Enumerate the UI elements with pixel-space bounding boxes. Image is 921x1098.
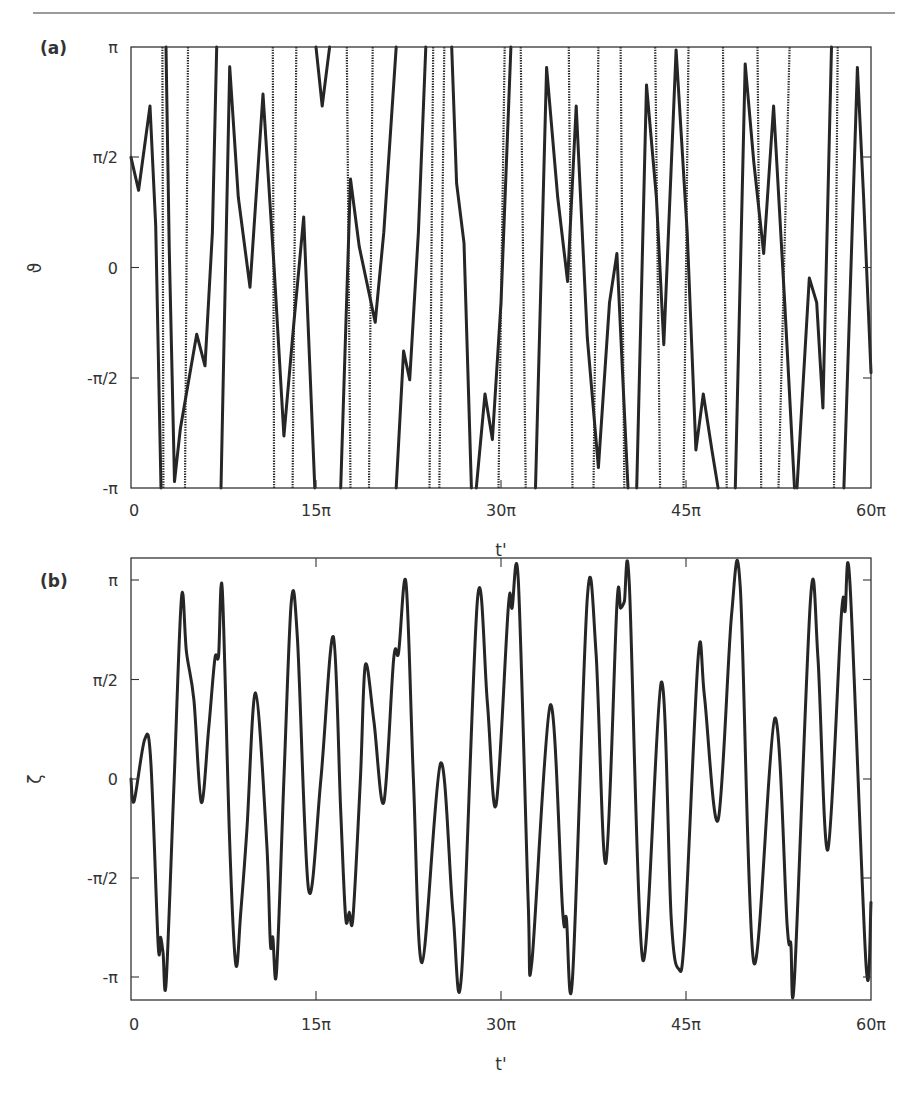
theta-curve-segment [637, 50, 718, 488]
zeta-curve [131, 560, 871, 998]
theta-curve-segment [452, 47, 472, 488]
zeta-curve-path [131, 560, 871, 998]
theta-curve-segment [735, 64, 794, 488]
theta-curve-segment [797, 47, 832, 488]
ytick-label-b-pi: π [108, 571, 118, 590]
theta-curve-segment [536, 67, 629, 488]
theta-rotation-line [521, 47, 526, 488]
figure: (a) π π/2 0 -π/2 -π 0 15π 30π 45π 60π t'… [0, 0, 921, 1098]
theta-curve-segment [844, 67, 871, 488]
ytick-label-b-neg-pi-half: -π/2 [87, 869, 118, 888]
theta-curve-segment [221, 67, 315, 488]
theta-rotation-line [430, 47, 434, 488]
theta-curve-segment [131, 106, 161, 488]
xtick-label-a-15: 15π [301, 501, 331, 520]
theta-rotation-line [439, 47, 444, 488]
xtick-label-a-30: 30π [486, 501, 516, 520]
panel-a-label: (a) [40, 38, 67, 58]
ytick-label-a-neg-pi-half: -π/2 [87, 369, 118, 388]
theta-rotation-line [723, 47, 727, 488]
xtick-label-b-60: 60π [856, 1015, 886, 1034]
theta-rotation-line [834, 47, 838, 488]
ylabel-a: ϑ [25, 263, 45, 274]
ytick-label-b-neg-pi: -π [103, 968, 119, 987]
ytick-label-b-pi-half: π/2 [93, 671, 118, 690]
theta-rotation-line [185, 47, 188, 488]
theta-curve-segment [316, 47, 330, 106]
xtick-label-b-15: 15π [301, 1015, 331, 1034]
ytick-label-a-pi: π [108, 38, 118, 57]
theta-rotation-line [621, 47, 625, 488]
theta-rotation-line [293, 47, 297, 488]
theta-rotation-line [162, 47, 163, 488]
ytick-label-a-neg-pi: -π [103, 479, 119, 498]
ylabel-b: ζ [25, 774, 45, 783]
xlabel-a: t' [495, 540, 506, 560]
xtick-label-a-45: 45π [671, 501, 701, 520]
ytick-label-a-zero: 0 [108, 259, 118, 278]
theta-curve-segment [476, 47, 511, 488]
panel-b: (b) π π/2 0 -π/2 -π 0 15π 30π 45π 60π [25, 558, 886, 1074]
xtick-label-b-0: 0 [129, 1015, 139, 1034]
ytick-label-b-zero: 0 [108, 770, 118, 789]
xtick-label-b-30: 30π [486, 1015, 516, 1034]
theta-curve [131, 47, 871, 488]
theta-curve-segment [166, 47, 217, 482]
theta-curve-segment [396, 47, 426, 488]
xlabel-b: t' [495, 1054, 506, 1074]
xtick-label-a-0: 0 [129, 501, 139, 520]
xtick-label-a-60: 60π [856, 501, 886, 520]
xtick-label-b-45: 45π [671, 1015, 701, 1034]
theta-rotation-line [758, 47, 762, 488]
panel-a: (a) π π/2 0 -π/2 -π 0 15π 30π 45π 60π t'… [25, 38, 886, 560]
panel-b-label: (b) [40, 571, 68, 591]
ytick-label-a-pi-half: π/2 [93, 148, 118, 167]
theta-rotation-line [369, 47, 373, 488]
